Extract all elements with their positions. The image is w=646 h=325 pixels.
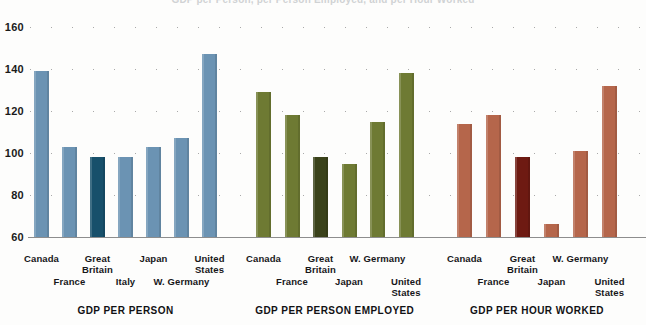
bar-france-p2 xyxy=(285,115,300,237)
bar-highlight-edge xyxy=(202,54,204,237)
bar-shadow-edge xyxy=(187,138,189,237)
bar-highlight-edge xyxy=(62,147,64,237)
y-axis-tick-80: 80 xyxy=(11,189,24,201)
gridline-140 xyxy=(28,69,642,70)
bar-shadow-edge xyxy=(131,157,133,237)
category-label-united-states-p1: UnitedStates xyxy=(188,253,232,275)
bar-highlight-edge xyxy=(602,86,604,237)
bar-shadow-edge xyxy=(528,157,530,237)
bar-highlight-edge xyxy=(285,115,287,237)
y-axis-tick-100: 100 xyxy=(5,147,24,159)
bar-japan-p1 xyxy=(146,147,161,237)
gridline-100 xyxy=(28,153,642,154)
category-label-japan-p1: Japan xyxy=(140,253,168,264)
category-label-france-p3: France xyxy=(478,276,510,287)
category-label-united-states-p2: UnitedStates xyxy=(384,276,428,298)
bar-japan-p2 xyxy=(342,164,357,238)
bar-canada-p1 xyxy=(34,71,49,237)
panel-title-1: GDP PER PERSON xyxy=(77,305,173,316)
y-axis-tick-140: 140 xyxy=(5,63,24,75)
bar-canada-p2 xyxy=(256,92,271,237)
gridline-160 xyxy=(28,27,642,28)
category-label-w-germany-p3: W. Germany xyxy=(553,253,609,264)
gdp-comparison-chart: GDP per Person, per Person Employed, and… xyxy=(0,0,646,325)
bar-highlight-edge xyxy=(370,122,372,238)
bar-highlight-edge xyxy=(342,164,344,238)
bar-highlight-edge xyxy=(90,157,92,237)
bar-united-states-p3 xyxy=(602,86,617,237)
y-axis-tick-60: 60 xyxy=(11,231,24,243)
bar-shadow-edge xyxy=(47,71,49,237)
bar-w-germany-p2 xyxy=(370,122,385,238)
bar-highlight-edge xyxy=(118,157,120,237)
bar-shadow-edge xyxy=(215,54,217,237)
bar-w-germany-p3 xyxy=(573,151,588,237)
bar-highlight-edge xyxy=(313,157,315,237)
y-axis-labels: 6080100120140160 xyxy=(0,16,26,238)
bar-shadow-edge xyxy=(586,151,588,237)
bar-france-p3 xyxy=(486,115,501,237)
bar-japan-p3 xyxy=(544,224,559,237)
bar-highlight-edge xyxy=(457,124,459,237)
y-axis-tick-120: 120 xyxy=(5,105,24,117)
bar-united-states-p2 xyxy=(399,73,414,237)
x-axis-baseline xyxy=(28,237,646,238)
bar-shadow-edge xyxy=(412,73,414,237)
bar-shadow-edge xyxy=(269,92,271,237)
category-label-great-britain-p3: GreatBritain xyxy=(501,253,545,275)
bar-highlight-edge xyxy=(256,92,258,237)
bar-united-states-p1 xyxy=(202,54,217,237)
category-label-canada-p2: Canada xyxy=(246,253,281,264)
category-label-japan-p3: Japan xyxy=(538,276,566,287)
bar-great-britain-p3 xyxy=(515,157,530,237)
plot-area xyxy=(28,16,642,238)
bar-shadow-edge xyxy=(103,157,105,237)
bar-italy-p1 xyxy=(118,157,133,237)
category-label-france-p2: France xyxy=(276,276,308,287)
bar-highlight-edge xyxy=(146,147,148,237)
panel-title-2: GDP PER PERSON EMPLOYED xyxy=(255,305,414,316)
bar-shadow-edge xyxy=(615,86,617,237)
bar-shadow-edge xyxy=(326,157,328,237)
panel-title-3: GDP PER HOUR WORKED xyxy=(470,305,604,316)
bar-great-britain-p2 xyxy=(313,157,328,237)
gridline-120 xyxy=(28,111,642,112)
category-label-w-germany-p2: W. Germany xyxy=(350,253,406,264)
bar-shadow-edge xyxy=(383,122,385,238)
bar-highlight-edge xyxy=(515,157,517,237)
bar-highlight-edge xyxy=(399,73,401,237)
bar-shadow-edge xyxy=(499,115,501,237)
category-label-great-britain-p1: GreatBritain xyxy=(76,253,120,275)
bar-shadow-edge xyxy=(557,224,559,237)
bar-highlight-edge xyxy=(34,71,36,237)
bar-highlight-edge xyxy=(544,224,546,237)
y-axis-tick-160: 160 xyxy=(5,21,24,33)
bar-w-germany-p1 xyxy=(174,138,189,237)
bar-shadow-edge xyxy=(159,147,161,237)
category-label-united-states-p3: UnitedStates xyxy=(588,276,632,298)
bar-shadow-edge xyxy=(470,124,472,237)
bar-highlight-edge xyxy=(486,115,488,237)
bar-canada-p3 xyxy=(457,124,472,237)
bar-highlight-edge xyxy=(174,138,176,237)
category-label-canada-p3: Canada xyxy=(447,253,482,264)
bar-shadow-edge xyxy=(355,164,357,238)
category-label-canada-p1: Canada xyxy=(24,253,59,264)
bar-shadow-edge xyxy=(298,115,300,237)
category-label-great-britain-p2: GreatBritain xyxy=(299,253,343,275)
bar-france-p1 xyxy=(62,147,77,237)
bar-great-britain-p1 xyxy=(90,157,105,237)
bar-highlight-edge xyxy=(573,151,575,237)
category-label-japan-p2: Japan xyxy=(335,276,363,287)
chart-title-clipped: GDP per Person, per Person Employed, and… xyxy=(0,0,646,6)
category-label-france-p1: France xyxy=(54,276,86,287)
bar-shadow-edge xyxy=(75,147,77,237)
category-label-w-germany-p1: W. Germany xyxy=(154,276,210,287)
category-label-italy-p1: Italy xyxy=(116,276,136,287)
